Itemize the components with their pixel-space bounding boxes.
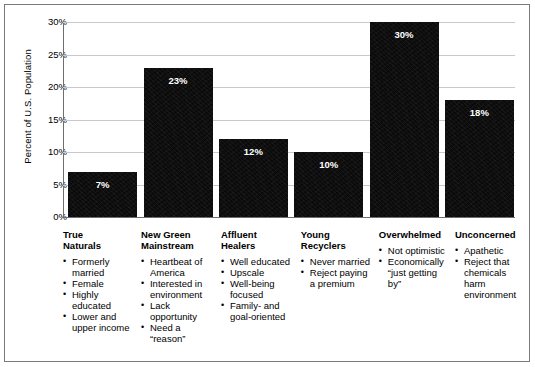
segment-bullet-item: Apathetic [455, 245, 525, 256]
bar-value-label: 7% [68, 179, 137, 190]
segment-bullet-item: Never married [301, 256, 375, 267]
segment-bullet-list: Never marriedReject paying a premium [301, 256, 375, 289]
segment-bullet-item: Well-being focused [221, 278, 297, 300]
bar-affluent-healers: 12% [219, 139, 288, 217]
y-tick-label: 15% [27, 115, 67, 125]
segment-bullet-list: Well educatedUpscaleWell-being focusedFa… [221, 256, 297, 322]
segment-descriptions: True NaturalsFormerly marriedFemaleHighl… [63, 229, 529, 361]
y-tick-label: 25% [27, 50, 67, 60]
bar-value-label: 12% [219, 146, 288, 157]
bar-value-label: 18% [445, 107, 514, 118]
bar-value-label: 10% [294, 159, 363, 170]
segment-column: UnconcernedApatheticReject that chemical… [455, 229, 529, 361]
figure-frame: Percent of U.S. Population 30%25%20%15%1… [4, 4, 530, 362]
bar-chart: Percent of U.S. Population 30%25%20%15%1… [5, 5, 531, 227]
y-tick-label: 30% [27, 17, 67, 27]
segment-column: OverwhelmedNot optimisticEconomically “j… [379, 229, 455, 361]
y-tick-label: 20% [27, 82, 67, 92]
segment-bullet-item: Interested in environment [141, 278, 217, 300]
segment-bullet-item: Female [63, 278, 137, 289]
bar-value-label: 23% [144, 75, 213, 86]
segment-bullet-item: Highly educated [63, 289, 137, 311]
y-tick-label: 10% [27, 147, 67, 157]
segment-title: Overwhelmed [379, 229, 451, 240]
segment-bullet-item: Need a “reason” [141, 322, 217, 344]
segment-bullet-item: Upscale [221, 267, 297, 278]
segment-bullet-item: Well educated [221, 256, 297, 267]
segment-bullet-item: Lack opportunity [141, 300, 217, 322]
segment-column: Affluent HealersWell educatedUpscaleWell… [221, 229, 301, 361]
bar-true-naturals: 7% [68, 172, 137, 218]
y-axis-tick-labels: 30%25%20%15%10%5%0% [27, 16, 67, 216]
segment-bullet-item: Heartbeat of America [141, 256, 217, 278]
bar-young-recyclers: 10% [294, 152, 363, 217]
bar-overwhelmed: 30% [370, 22, 439, 217]
bar-new-green-mainstream: 23% [144, 68, 213, 218]
y-tick-label: 0% [27, 212, 67, 222]
segment-title: Young Recyclers [301, 229, 375, 251]
segment-title: True Naturals [63, 229, 137, 251]
segment-bullet-item: Family- and goal-oriented [221, 300, 297, 322]
segment-bullet-item: Economically “just getting by” [379, 256, 451, 289]
segment-bullet-item: Lower and upper income [63, 311, 137, 333]
bar-value-label: 30% [370, 29, 439, 40]
segment-bullet-list: Formerly marriedFemaleHighly educatedLow… [63, 256, 137, 333]
gridline [63, 87, 515, 88]
segment-title: Unconcerned [455, 229, 525, 240]
gridline [63, 22, 515, 23]
segment-bullet-item: Reject that chemicals harm environment [455, 256, 525, 300]
segment-column: Young RecyclersNever marriedReject payin… [301, 229, 379, 361]
segment-title: Affluent Healers [221, 229, 297, 251]
segment-bullet-item: Formerly married [63, 256, 137, 278]
segment-bullet-item: Reject paying a premium [301, 267, 375, 289]
gridline [63, 55, 515, 56]
x-axis-line [63, 217, 515, 218]
segment-column: New Green MainstreamHeartbeat of America… [141, 229, 221, 361]
segment-bullet-item: Not optimistic [379, 245, 451, 256]
segment-bullet-list: Heartbeat of AmericaInterested in enviro… [141, 256, 217, 344]
segment-title: New Green Mainstream [141, 229, 217, 251]
plot-area: 7%23%12%10%30%18% [63, 22, 515, 218]
segment-column: True NaturalsFormerly marriedFemaleHighl… [63, 229, 141, 361]
segment-bullet-list: Not optimisticEconomically “just getting… [379, 245, 451, 289]
y-tick-label: 5% [27, 180, 67, 190]
segment-bullet-list: ApatheticReject that chemicals harm envi… [455, 245, 525, 300]
bar-unconcerned: 18% [445, 100, 514, 217]
